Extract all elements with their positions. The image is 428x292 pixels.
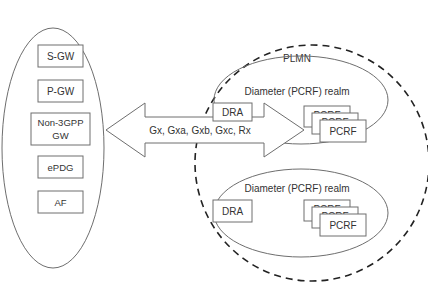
node-epdg: ePDG — [38, 156, 83, 178]
realm-2-dra-label: DRA — [222, 206, 243, 217]
diagram-canvas: PLMN S-GW P-GW Non-3GPP GW ePDG AF Gx, G… — [0, 0, 428, 292]
realm-1-pcrf-stack: PCRF PCRF PCRF — [304, 106, 366, 142]
node-af: AF — [38, 191, 83, 213]
node-pgw: P-GW — [38, 80, 83, 102]
realm-1-dra: DRA — [213, 103, 252, 121]
realm-2-dra: DRA — [213, 200, 252, 222]
plmn-label: PLMN — [283, 53, 311, 64]
node-pgw-label: P-GW — [47, 86, 75, 97]
node-epdg-label: ePDG — [48, 162, 74, 173]
realm-1-pcrf-3-label: PCRF — [329, 126, 356, 137]
node-non3gpp-gw: Non-3GPP GW — [31, 113, 90, 145]
node-sgw: S-GW — [38, 45, 83, 67]
realm-1-label: Diameter (PCRF) realm — [244, 86, 349, 97]
node-sgw-label: S-GW — [47, 51, 75, 62]
interface-arrow-label: Gx, Gxa, Gxb, Gxc, Rx — [149, 125, 251, 136]
realm-2-label: Diameter (PCRF) realm — [244, 183, 349, 194]
realm-2-pcrf-3-label: PCRF — [329, 220, 356, 231]
node-af-label: AF — [54, 197, 66, 208]
node-non3gpp-label-line1: Non-3GPP — [38, 117, 84, 128]
node-non3gpp-label-line2: GW — [52, 130, 68, 141]
realm-1-dra-label: DRA — [222, 107, 243, 118]
